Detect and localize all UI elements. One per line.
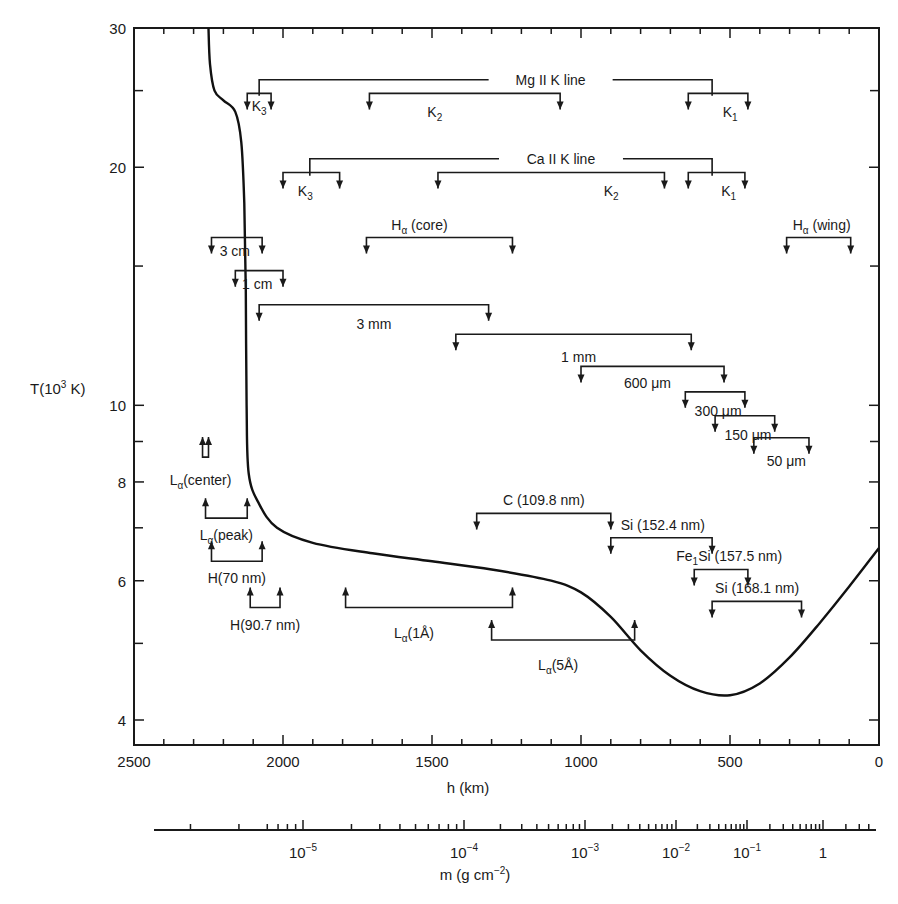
arrow-up-icon — [342, 588, 349, 596]
mass-tick-label: 10−4 — [450, 842, 479, 861]
x-tick-label: 1500 — [415, 753, 448, 770]
m-axis-title: m (g cm−2) — [440, 865, 511, 883]
arrow-down-icon — [244, 101, 251, 109]
x-tick-label: 2000 — [266, 753, 299, 770]
arrow-down-icon — [805, 446, 812, 454]
arrow-down-icon — [685, 101, 692, 109]
x-axis-title: h (km) — [447, 779, 490, 796]
bracket-150-m: 150 μm — [712, 416, 779, 443]
x-tick-label: 500 — [717, 753, 742, 770]
arrow-down-icon — [366, 101, 373, 109]
column-mass-axis: 10−510−410−310−210−11 — [154, 820, 876, 861]
bracket-k2: K2 — [434, 172, 667, 202]
bracket-label: K2 — [427, 104, 442, 123]
arrow-up-icon — [199, 437, 206, 445]
arrow-down-icon — [750, 446, 757, 454]
bracket-si-168-1-nm-: Si (168.1 nm) — [709, 580, 805, 617]
arrow-up-icon — [244, 498, 251, 506]
arrow-down-icon — [268, 101, 275, 109]
line-group-label: Mg II K line — [516, 72, 586, 88]
y-tick-label: 6 — [118, 573, 126, 590]
bracket-label: Lα(peak) — [200, 527, 253, 546]
arrow-down-icon — [280, 180, 287, 188]
arrow-down-icon — [578, 374, 585, 382]
y-tick-label: 10 — [109, 397, 126, 414]
y-tick-label: 4 — [118, 712, 126, 729]
bracket-600-m: 600 μm — [578, 366, 728, 391]
arrow-down-icon — [771, 424, 778, 432]
arrow-up-icon — [202, 498, 209, 506]
bracket-label: 150 μm — [724, 427, 771, 443]
bracket-3-cm: 3 cm — [208, 238, 266, 259]
bracket-1-mm: 1 mm — [452, 334, 694, 365]
bracket-label: 3 mm — [356, 316, 391, 332]
y-tick-label: 20 — [109, 159, 126, 176]
arrow-down-icon — [682, 400, 689, 408]
bracket-label: K2 — [604, 183, 619, 202]
bracket-label: C (109.8 nm) — [503, 492, 585, 508]
bracket-label: Hα (core) — [391, 217, 447, 236]
arrow-down-icon — [607, 546, 614, 554]
arrow-up-icon — [488, 620, 495, 628]
bracket-1-cm: 1 cm — [232, 271, 287, 292]
bracket-label: Lα(1Å) — [394, 625, 434, 644]
y-tick-label: 8 — [118, 474, 126, 491]
bracket-h-70-nm-: H(70 nm) — [208, 541, 266, 586]
bracket-h-wing-: Hα (wing) — [783, 217, 854, 254]
bracket-k1: K1 — [685, 172, 749, 202]
bracket-label: H(90.7 nm) — [230, 617, 300, 633]
arrow-up-icon — [509, 588, 516, 596]
bracket-k1: K1 — [685, 93, 752, 123]
bracket-label: H(70 nm) — [208, 570, 266, 586]
mass-tick-label: 1 — [819, 844, 827, 861]
bracket-label: K3 — [252, 98, 267, 117]
arrow-down-icon — [509, 246, 516, 254]
bracket-label: 3 cm — [220, 243, 250, 259]
arrow-down-icon — [607, 521, 614, 529]
mass-tick-label: 10−1 — [733, 842, 762, 861]
bracket-label: K1 — [721, 183, 736, 202]
bracket-label: K1 — [723, 104, 738, 123]
bracket-l-5-: Lα(5Å) — [488, 620, 638, 676]
arrow-down-icon — [688, 342, 695, 350]
bracket-label: Lα(center) — [170, 472, 232, 491]
bracket-h-core-: Hα (core) — [363, 217, 516, 254]
plot-axes: 25002000150010005000468102030 — [109, 20, 883, 770]
mass-tick-label: 10−5 — [289, 842, 318, 861]
arrow-down-icon — [691, 577, 698, 585]
bracket-k3: K3 — [280, 172, 344, 202]
mass-tick-label: 10−3 — [571, 842, 600, 861]
arrow-up-icon — [205, 437, 212, 445]
arrow-up-icon — [259, 541, 266, 549]
bracket-label: Hα (wing) — [793, 217, 851, 236]
bracket-k3: K3 — [244, 93, 275, 117]
arrow-down-icon — [847, 246, 854, 254]
bracket-label: 1 cm — [242, 276, 272, 292]
line-group-label: Ca II K line — [527, 151, 596, 167]
arrow-down-icon — [744, 101, 751, 109]
arrow-up-icon — [277, 588, 284, 596]
arrow-down-icon — [452, 342, 459, 350]
mass-tick-label: 10−2 — [662, 842, 691, 861]
arrow-down-icon — [741, 180, 748, 188]
bracket-k2: K2 — [366, 93, 564, 123]
y-tick-label: 30 — [109, 20, 126, 37]
arrow-down-icon — [661, 180, 668, 188]
formation-height-brackets: Mg II K lineK3K2K1Ca II K lineK3K2K1Hα (… — [170, 72, 855, 676]
arrow-down-icon — [363, 246, 370, 254]
bracket-label: Si (168.1 nm) — [715, 580, 799, 596]
arrow-up-icon — [247, 588, 254, 596]
bracket-c-109-8-nm-: C (109.8 nm) — [473, 492, 614, 529]
arrow-down-icon — [434, 180, 441, 188]
arrow-down-icon — [721, 374, 728, 382]
arrow-down-icon — [280, 279, 287, 287]
x-tick-label: 0 — [875, 753, 883, 770]
bracket-l-center-: Lα(center) — [170, 437, 232, 491]
bracket-h-90-7-nm-: H(90.7 nm) — [230, 588, 300, 633]
arrow-down-icon — [798, 609, 805, 617]
arrow-down-icon — [259, 246, 266, 254]
arrow-down-icon — [557, 101, 564, 109]
temperature-height-chart: 25002000150010005000468102030 Mg II K li… — [0, 0, 898, 904]
arrow-down-icon — [709, 609, 716, 617]
bracket-label: 600 μm — [624, 375, 671, 391]
